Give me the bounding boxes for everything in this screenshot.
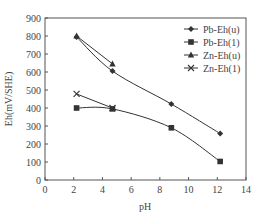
- legend-item: Pb-Eh(u): [184, 24, 240, 36]
- y-tick-label: 0: [36, 175, 41, 186]
- x-tick-label: 2: [71, 184, 76, 195]
- series-pb-eh-u-: [74, 34, 224, 137]
- x-tick-label: 8: [157, 184, 162, 195]
- triangle-marker: [109, 60, 115, 66]
- y-tick-label: 300: [26, 121, 41, 132]
- x-tick-label: 4: [100, 184, 105, 195]
- series-pb-eh-1-: [74, 105, 223, 164]
- y-tick-label: 700: [26, 49, 41, 60]
- x-tick-label: 6: [129, 184, 134, 195]
- cross-marker: [74, 91, 80, 97]
- legend: Pb-Eh(u)Pb-Eh(1)Zn-Eh(u)Zn-Eh(1): [184, 24, 240, 75]
- legend-label: Pb-Eh(u): [203, 24, 240, 36]
- y-tick-label: 500: [26, 85, 41, 96]
- square-marker: [74, 105, 80, 111]
- x-tick-label: 14: [241, 184, 251, 195]
- y-axis-title: Eh(mV/SHE): [3, 72, 15, 126]
- legend-item: Zn-Eh(u): [184, 50, 240, 62]
- x-tick-label: 10: [184, 184, 194, 195]
- y-tick-label: 600: [26, 67, 41, 78]
- y-tick-label: 400: [26, 103, 41, 114]
- legend-item: Zn-Eh(1): [184, 63, 240, 75]
- triangle-marker: [73, 33, 79, 39]
- legend-label: Zn-Eh(u): [203, 50, 240, 62]
- square-marker: [217, 159, 223, 165]
- x-tick-label: 12: [212, 184, 222, 195]
- legend-label: Pb-Eh(1): [203, 37, 240, 49]
- diamond-marker: [188, 26, 194, 32]
- y-tick-label: 200: [26, 139, 41, 150]
- series-zn-eh-u-: [73, 33, 115, 67]
- line-chart: 024681012140100200300400500600700800900 …: [0, 0, 261, 224]
- x-tick-label: 0: [43, 184, 48, 195]
- data-series: [73, 33, 223, 165]
- square-marker: [169, 125, 175, 131]
- y-tick-label: 900: [26, 13, 41, 24]
- x-axis-title: pH: [139, 201, 151, 212]
- square-marker: [188, 39, 194, 45]
- legend-item: Pb-Eh(1): [184, 37, 240, 49]
- y-tick-label: 100: [26, 157, 41, 168]
- diamond-marker: [217, 131, 223, 137]
- legend-label: Zn-Eh(1): [203, 63, 240, 75]
- y-tick-label: 800: [26, 31, 41, 42]
- diamond-marker: [168, 101, 174, 107]
